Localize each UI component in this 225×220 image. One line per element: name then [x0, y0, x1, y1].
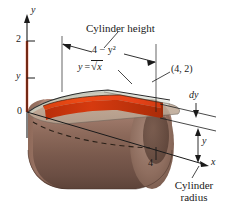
shell-width-label: 4 − y²: [92, 45, 116, 56]
origin-label: 0: [17, 106, 22, 117]
y-axis-label: y: [31, 5, 35, 16]
cylinder-radius-leader: [192, 166, 199, 178]
shell-strip-right-cap: [161, 103, 163, 118]
cylinder-radius-line-1: Cylinder: [175, 179, 214, 191]
x-axis-label: x: [211, 157, 215, 168]
y-dim-arrowhead-up: [195, 128, 201, 136]
curve-equation-leader: [118, 70, 132, 84]
dy-label: dy: [189, 90, 198, 101]
y-dimension-label: y: [202, 136, 206, 147]
curve-equation-eq: =: [84, 61, 90, 72]
cylinder-radius-line-2: radius: [181, 191, 208, 203]
y-tick-2-label: 2: [16, 34, 21, 45]
volume-by-shells-figure: y 2 y 0 Cylinder height 4 − y² y=√x (4, …: [0, 0, 225, 220]
dy-arrowhead: [193, 110, 199, 118]
x-tick-4-label: 4: [148, 158, 153, 169]
x-axis-arrowhead: [200, 161, 209, 167]
dim-left-arrowhead: [62, 44, 71, 50]
y-axis-arrowhead: [24, 14, 30, 23]
cylinder-height-label: Cylinder height: [86, 23, 155, 35]
shell-width-text: 4 − y²: [92, 44, 116, 55]
curve-equation-radicand: √x: [91, 60, 103, 72]
point-4-2-label: (4, 2): [171, 64, 193, 75]
cylinder-radius-label: Cylinder radius: [163, 180, 225, 203]
curve-equation-rhs: x: [97, 61, 101, 72]
point-label-leader: [152, 72, 170, 82]
curve-equation-label: y=√x: [78, 61, 103, 73]
curve-equation-lhs: y: [78, 61, 82, 72]
y-tick-y-label: y: [16, 71, 20, 82]
